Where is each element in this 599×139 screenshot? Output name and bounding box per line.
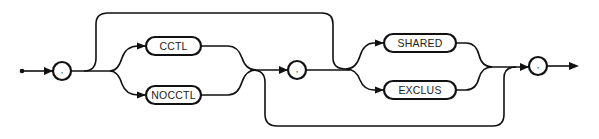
branch-nocctl-in	[110, 71, 146, 95]
option-exclus: EXCLUS	[384, 81, 456, 99]
separator-node-1: ,	[53, 62, 71, 80]
separator-label: ,	[296, 64, 299, 74]
branch-exclus-in	[346, 69, 384, 90]
option-nocctl: NOCCTL	[146, 86, 201, 104]
branch-shared-in	[346, 43, 384, 69]
branch-shared-out	[456, 43, 492, 67]
branch-exclus-out	[456, 67, 492, 90]
option-label: NOCCTL	[151, 89, 195, 101]
arrow-icon	[137, 43, 146, 50]
arrow-icon	[279, 66, 288, 74]
option-label: EXCLUS	[398, 84, 441, 96]
arrow-icon	[375, 40, 384, 47]
option-shared: SHARED	[384, 34, 456, 52]
syntax-diagram: , CCTL NOCCTL , SHARED EXCL	[0, 0, 599, 139]
end-arrow-icon	[569, 62, 579, 70]
arrow-icon	[375, 87, 384, 94]
arrow-icon	[44, 67, 53, 75]
separator-label: ,	[61, 65, 64, 75]
branch-cctl-in	[110, 46, 146, 71]
arrow-icon	[137, 92, 146, 99]
arrow-icon	[520, 63, 529, 71]
option-label: CCTL	[159, 40, 187, 52]
separator-node-2: ,	[288, 61, 306, 79]
option-cctl: CCTL	[146, 37, 201, 55]
branch-cctl-out	[201, 46, 256, 70]
separator-label: ,	[537, 60, 540, 70]
option-label: SHARED	[398, 37, 443, 49]
separator-node-3: ,	[529, 57, 547, 75]
bypass-top-line	[84, 13, 346, 71]
branch-nocctl-out	[201, 70, 256, 95]
